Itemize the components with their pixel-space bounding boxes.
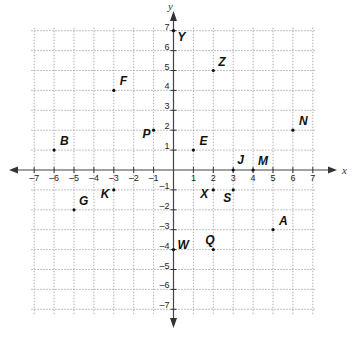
point-label: N <box>299 114 308 128</box>
point-marker <box>212 248 215 251</box>
point-n: N <box>291 114 308 132</box>
y-tick-label: –4 <box>159 241 169 251</box>
x-tick-label: 3 <box>231 173 236 183</box>
x-tick-label: –5 <box>69 173 79 183</box>
x-axis-left-arrow-icon <box>9 167 18 174</box>
coordinate-plane: –7–6–5–4–3–2–11234567–7–6–5–4–3–2–112345… <box>0 0 353 338</box>
point-w: W <box>172 238 191 252</box>
y-tick-label: 4 <box>164 81 169 91</box>
point-j: J <box>232 153 245 172</box>
y-tick-label: –1 <box>159 181 169 191</box>
point-k: K <box>101 187 116 201</box>
x-tick-label: 7 <box>310 173 315 183</box>
y-tick-label: 7 <box>164 22 169 32</box>
point-marker <box>252 168 255 171</box>
y-tick-label: –3 <box>159 221 169 231</box>
point-marker <box>152 129 155 132</box>
point-marker <box>112 188 115 191</box>
point-g: G <box>72 194 88 212</box>
y-tick-label: –2 <box>159 201 169 211</box>
x-tick-label: –6 <box>49 173 59 183</box>
point-marker <box>172 29 175 32</box>
point-e: E <box>192 134 209 152</box>
x-axis-right-arrow-icon <box>328 167 337 174</box>
y-tick-label: –5 <box>159 261 169 271</box>
x-tick-label: –1 <box>149 173 159 183</box>
y-tick-label: 2 <box>164 121 169 131</box>
x-tick-label: –3 <box>109 173 119 183</box>
y-axis-up-arrow-icon <box>170 11 177 21</box>
point-label: M <box>258 154 269 168</box>
y-axis-label: y <box>167 0 173 12</box>
point-label: J <box>237 153 244 167</box>
point-marker <box>212 188 215 191</box>
x-tick-label: 1 <box>191 173 196 183</box>
point-z: Z <box>212 55 227 73</box>
point-marker <box>291 129 294 132</box>
y-tick-label: 5 <box>164 62 169 72</box>
point-marker <box>112 89 115 92</box>
point-q: Q <box>205 233 215 252</box>
point-marker <box>53 149 56 152</box>
point-label: Z <box>217 55 226 69</box>
y-tick-label: –6 <box>159 280 169 290</box>
point-marker <box>192 149 195 152</box>
x-axis-label: x <box>341 164 347 176</box>
point-label: G <box>79 194 88 208</box>
x-tick-label: –2 <box>129 173 139 183</box>
point-label: W <box>178 238 191 252</box>
point-label: P <box>143 127 152 141</box>
point-label: X <box>199 187 209 201</box>
point-marker <box>172 248 175 251</box>
y-axis-down-arrow-icon <box>170 318 177 328</box>
x-tick-label: 2 <box>211 173 216 183</box>
point-marker <box>232 168 235 171</box>
points: ABEFGJKMNPQSWXYZ <box>53 29 308 252</box>
x-tick-label: 5 <box>270 173 275 183</box>
point-label: F <box>120 74 128 88</box>
point-label: B <box>60 134 69 148</box>
x-tick-label: 4 <box>251 173 256 183</box>
axes <box>9 11 337 328</box>
x-tick-label: 6 <box>290 173 295 183</box>
point-m: M <box>252 154 270 172</box>
y-tick-label: 3 <box>164 101 169 111</box>
y-tick-label: –7 <box>159 300 169 310</box>
y-tick-label: 6 <box>164 42 169 52</box>
x-tick-label: –4 <box>89 173 99 183</box>
point-f: F <box>112 74 128 92</box>
point-marker <box>72 208 75 211</box>
point-marker <box>212 69 215 72</box>
point-a: A <box>271 214 287 232</box>
point-label: S <box>223 191 231 205</box>
y-tick-label: 1 <box>164 141 169 151</box>
point-marker <box>271 228 274 231</box>
point-label: E <box>199 134 208 148</box>
x-tick-label: –7 <box>29 173 39 183</box>
point-label: Y <box>178 30 187 44</box>
point-label: A <box>278 214 288 228</box>
point-label: Q <box>205 233 215 247</box>
point-x: X <box>199 187 215 201</box>
point-b: B <box>53 134 70 152</box>
point-label: K <box>101 187 111 201</box>
tick-marks: –7–6–5–4–3–2–11234567–7–6–5–4–3–2–112345… <box>29 22 315 311</box>
point-marker <box>232 188 235 191</box>
